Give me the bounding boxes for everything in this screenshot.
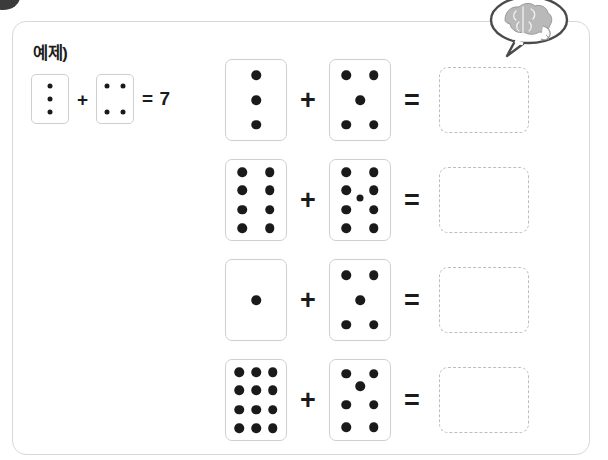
card-dot [341,205,351,215]
card-dot [234,405,244,415]
answer-input[interactable] [439,167,529,233]
card-dot [251,423,261,433]
card-dot [265,223,275,233]
card-dot [265,205,275,215]
example-equation: + = 7 [31,74,221,124]
card-dot [341,270,351,280]
card-dot [234,423,244,433]
problem-row: + = [225,150,575,250]
card-dot [234,367,244,377]
card-dot [104,83,109,88]
card-dot [268,367,278,377]
brain-icon [485,0,569,58]
corner-bullet-icon [0,0,20,10]
card-dot [369,70,379,80]
card-dot [251,405,261,415]
problem-list: + = + [225,50,575,450]
card-dot [369,120,379,130]
card-dot [369,270,379,280]
card-dot [234,386,244,396]
equals-sign: = [391,87,433,114]
card-dot [237,205,247,215]
card-dot [369,186,379,196]
card-dot [341,400,351,410]
card-dot [104,110,109,115]
card-dot [251,70,261,80]
card-dot [251,295,261,305]
card-dot [341,223,351,233]
card-dot [341,320,351,330]
plus-sign: + [287,187,329,214]
card-dot [237,223,247,233]
brain-thought-bubble-icon [485,0,569,58]
card-dot [237,186,247,196]
card-dot [251,386,261,396]
card-dot [341,369,351,379]
card-dot [48,110,53,115]
answer-input[interactable] [439,67,529,133]
card-dot [355,382,365,392]
plus-sign: + [287,387,329,414]
example-right-card [96,74,134,124]
example-left-card [31,74,69,124]
problem-right-card [329,359,391,441]
problem-left-card [225,59,287,141]
equals-sign: = [391,387,433,414]
problem-left-card [225,159,287,241]
answer-input[interactable] [439,267,529,333]
card-dot [251,95,261,105]
card-dot [121,110,126,115]
problem-row: + = [225,50,575,150]
card-dot [268,423,278,433]
equals-sign: = [391,287,433,314]
card-dot [268,405,278,415]
problem-left-card [225,359,287,441]
plus-sign: + [77,90,88,109]
card-dot [48,97,53,102]
example-label: 예제) [33,40,221,64]
worksheet-panel: 예제) + = 7 + [12,21,590,455]
example-block: 예제) + = 7 [31,40,221,124]
card-dot [251,367,261,377]
card-dot [341,186,351,196]
card-dot [341,167,351,177]
answer-input[interactable] [439,367,529,433]
problem-right-card [329,259,391,341]
card-dot [121,83,126,88]
card-dot [265,186,275,196]
plus-sign: + [287,87,329,114]
card-dot [265,167,275,177]
card-dot [268,386,278,396]
card-dot [357,195,364,202]
problem-row: + = [225,250,575,350]
card-dot [369,320,379,330]
card-dot [369,400,379,410]
problem-left-card [225,259,287,341]
card-dot [341,120,351,130]
card-dot [369,223,379,233]
card-dot [369,422,379,432]
card-dot [341,422,351,432]
plus-sign: + [287,287,329,314]
card-dot [251,120,261,130]
card-dot [369,167,379,177]
card-dot [369,369,379,379]
card-dot [369,205,379,215]
problem-right-card [329,159,391,241]
card-dot [355,295,365,305]
card-dot [48,83,53,88]
card-dot [237,167,247,177]
problem-right-card [329,59,391,141]
problem-row: + = [225,350,575,450]
example-result: = 7 [142,88,170,110]
equals-sign: = [391,187,433,214]
card-dot [355,95,365,105]
card-dot [341,70,351,80]
